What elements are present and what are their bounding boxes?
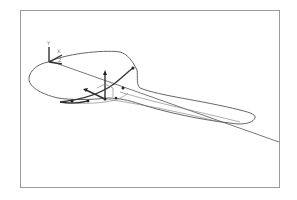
arrow-head-icon xyxy=(103,70,107,75)
control-point[interactable] xyxy=(122,87,125,90)
cad-viewport[interactable]: Y X Z xyxy=(0,0,297,200)
y-axis-label: Y xyxy=(46,40,51,46)
coordinate-triad: Y X Z xyxy=(46,40,62,64)
viewport-frame xyxy=(21,11,280,188)
spoon-outline xyxy=(29,51,255,124)
control-point[interactable] xyxy=(115,97,117,99)
cross-section-curve xyxy=(60,68,133,102)
x-axis-label: X xyxy=(57,48,61,54)
control-point[interactable] xyxy=(70,99,73,102)
control-point[interactable] xyxy=(87,100,90,103)
z-axis-label: Z xyxy=(58,57,62,63)
control-point[interactable] xyxy=(132,67,135,70)
